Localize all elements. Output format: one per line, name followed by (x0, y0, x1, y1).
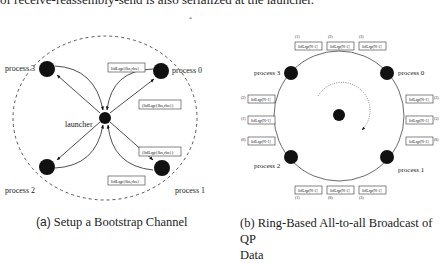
svg-text:lidLqp[N-1]: lidLqp[N-1] (409, 97, 429, 102)
svg-text:(1): (1) (295, 196, 300, 200)
launcher-node (99, 112, 111, 124)
svg-text:lidLqp[N-1]: lidLqp[N-1] (298, 44, 318, 49)
svg-text:lidLqp[N-1]: lidLqp[N-1] (330, 44, 350, 49)
message-box-top-recv: (lidLqp{lbs,rbs}) (139, 100, 181, 109)
message-box-bottom-recv: (lidLqp{lbs,rbs}) (139, 147, 181, 156)
figure-a-bootstrap-channel: process 3 process 0 launcher process 2 p… (5, 36, 205, 200)
ring-process-2-label: process 2 (254, 162, 281, 170)
process-1-node (154, 160, 170, 176)
ring-process-0-node (380, 66, 394, 80)
svg-text:(3): (3) (359, 35, 364, 39)
message-box-bottom-send: lidLqp{lbs,rbs} (108, 176, 145, 185)
figure-b-ring-broadcast: process 3 process 0 process 2 process 1 … (241, 35, 439, 200)
svg-text:(3): (3) (359, 196, 364, 200)
rotation-direction-arrow (318, 82, 370, 130)
ring-process-0-label: process 0 (398, 69, 425, 77)
svg-text:(3): (3) (434, 117, 439, 121)
process-3-node (39, 61, 55, 77)
figure-a-caption: (a) Setup a Bootstrap Channel (36, 215, 187, 230)
top-message-boxes: (1) (2) (3) lidLqp[N-1] lidLqp[N-1] lidL… (295, 35, 386, 50)
arrow-launcher-to-p3 (57, 75, 100, 113)
figure-b-caption-line1: Ring-Based All-to-all Broadcast of QP (240, 216, 432, 246)
svg-text:lidLqp[N-1]: lidLqp[N-1] (298, 188, 318, 193)
process-0-node (153, 63, 169, 79)
svg-text:(2): (2) (434, 96, 439, 100)
figure-b-caption: (b) Ring-Based All-to-all Broadcast of Q… (240, 215, 440, 263)
ring-center-node (333, 109, 345, 121)
arrow-p3-to-launcher (55, 66, 103, 110)
svg-text:(2): (2) (328, 35, 333, 39)
process-2-label: process 2 (5, 186, 35, 195)
svg-text:lidLqp[N-1]: lidLqp[N-1] (362, 44, 382, 49)
figure-b-caption-line2: Data (240, 248, 264, 262)
process-0-label: process 0 (172, 66, 202, 75)
svg-text:lidLqp[N-1]: lidLqp[N-1] (251, 118, 271, 123)
message-box-top-send: lidLqp{lbs,rbs} (108, 63, 145, 72)
right-message-boxes: lidLqp[N-1] (2) lidLqp[N-1] (3) lidLqp[N… (406, 95, 439, 145)
left-message-boxes: (2) lidLqp[N-1] (1) lidLqp[N-1] (0) lidL… (241, 95, 275, 145)
svg-text:lidLqp[N-1]: lidLqp[N-1] (251, 97, 271, 102)
process-1-label: process 1 (175, 186, 205, 195)
svg-text:(1): (1) (295, 35, 300, 39)
svg-text:lidLqp[N-1]: lidLqp[N-1] (362, 188, 382, 193)
svg-text:(0): (0) (328, 196, 333, 200)
svg-text:(2): (2) (241, 96, 246, 100)
figure-a-caption-text: Setup a Bootstrap Channel (54, 215, 188, 229)
svg-text:(0): (0) (241, 138, 246, 142)
figure-a-caption-tag: (a) (36, 215, 51, 229)
svg-text:lidLqp[N-1]: lidLqp[N-1] (409, 139, 429, 144)
svg-text:(1): (1) (241, 117, 246, 121)
ring-process-3-label: process 3 (254, 69, 281, 77)
process-3-label: process 3 (5, 64, 35, 73)
svg-text:(0): (0) (434, 138, 439, 142)
arrow-p2-to-launcher (55, 125, 103, 168)
svg-text:lidLqp[N-1]: lidLqp[N-1] (330, 188, 350, 193)
bottom-message-boxes: lidLqp[N-1] lidLqp[N-1] lidLqp[N-1] (1) … (295, 186, 386, 200)
process-2-node (39, 159, 55, 175)
ring-process-3-node (284, 66, 298, 80)
launcher-label: launcher (65, 120, 93, 129)
ring-process-1-node (380, 150, 394, 164)
svg-text:lidLqp[N-1]: lidLqp[N-1] (251, 139, 271, 144)
ring-process-1-label: process 1 (398, 166, 425, 174)
ring-process-2-node (284, 150, 298, 164)
svg-text:lidLqp[N-1]: lidLqp[N-1] (409, 118, 429, 123)
figure-b-caption-tag: (b) (240, 216, 255, 230)
